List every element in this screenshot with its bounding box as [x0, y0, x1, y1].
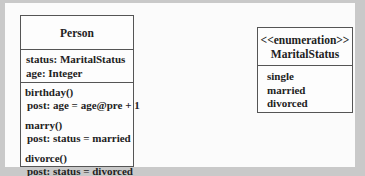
operation-signature: divorce(): [25, 152, 129, 165]
diagram-canvas: Person status: MaritalStatus age: Intege…: [5, 3, 355, 167]
marital-status-enumeration: <<enumeration>> MaritalStatus single mar…: [257, 27, 353, 113]
enum-literal-divorced: divorced: [267, 97, 343, 111]
person-class: Person status: MaritalStatus age: Intege…: [20, 15, 134, 167]
person-class-name-compartment: Person: [21, 16, 133, 50]
enum-name-compartment: <<enumeration>> MaritalStatus: [258, 28, 352, 66]
enum-literal-single: single: [267, 70, 343, 84]
enum-literals-compartment: single married divorced: [258, 66, 352, 115]
operation-signature: marry(): [25, 119, 129, 132]
operation-signature: birthday(): [25, 86, 129, 99]
operation-postcondition: post: status = divorced: [25, 165, 129, 176]
operation-postcondition: post: age = age@pre + 1: [25, 99, 129, 112]
enum-stereotype: <<enumeration>>: [258, 33, 352, 47]
attribute-status: status: MaritalStatus: [26, 53, 128, 67]
operation-birthday: birthday() post: age = age@pre + 1: [25, 86, 129, 112]
operation-marry: marry() post: status = married: [25, 119, 129, 145]
operation-postcondition: post: status = married: [25, 132, 129, 145]
enum-literal-married: married: [267, 84, 343, 98]
person-operations-compartment: birthday() post: age = age@pre + 1 marry…: [21, 83, 133, 176]
person-class-name: Person: [21, 26, 133, 40]
person-attributes-compartment: status: MaritalStatus age: Integer: [21, 50, 133, 83]
attribute-age: age: Integer: [26, 67, 128, 81]
operation-divorce: divorce() post: status = divorced: [25, 152, 129, 176]
enum-name: MaritalStatus: [258, 47, 352, 61]
